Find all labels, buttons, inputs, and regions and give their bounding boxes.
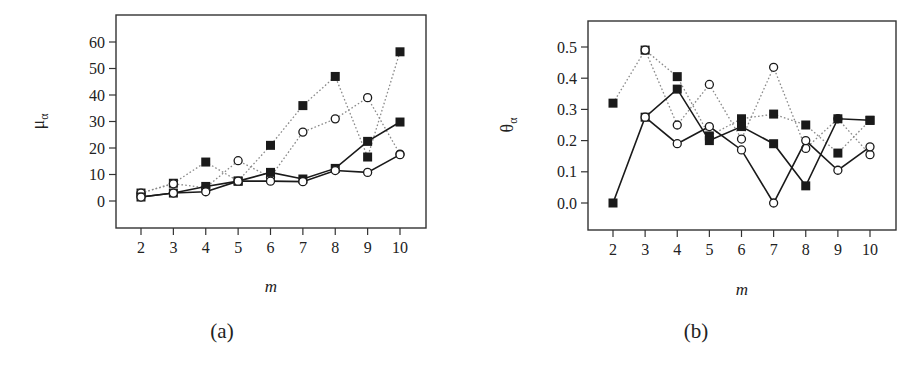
x-tick-label: 2 [609,241,617,258]
square-marker [396,47,405,56]
square-marker [609,199,618,208]
y-tick-label: 30 [89,113,105,130]
square-marker [396,118,405,127]
circle-marker [169,189,177,197]
square-marker [609,99,618,108]
y-tick-label: 0 [97,193,105,210]
circle-marker [169,180,177,188]
circle-marker [364,94,372,102]
square-marker [705,136,714,145]
y-tick-label: 40 [89,87,105,104]
x-tick-label: 8 [802,241,810,258]
y-tick-label: 10 [89,166,105,183]
series-line [645,50,870,155]
y-tick-label: 60 [89,34,105,51]
square-marker [673,85,682,94]
square-marker [363,137,372,146]
plot-frame [116,15,426,228]
circle-marker [738,135,746,143]
y-tick-label: 0.4 [557,70,577,87]
x-tick-label: 3 [641,241,649,258]
circle-marker [396,151,404,159]
square-marker [737,114,746,123]
x-tick-label: 6 [738,241,746,258]
caption-a: (a) [210,319,233,343]
circle-marker [705,80,713,88]
x-tick-label: 9 [364,239,372,256]
square-marker [266,168,275,177]
x-tick-label: 3 [169,239,177,256]
circle-marker [364,168,372,176]
square-marker [866,116,875,125]
circle-marker [673,121,681,129]
square-marker [801,181,810,190]
circle-marker [802,137,810,145]
circle-marker [866,143,874,151]
series-line [645,117,870,203]
x-tick-label: 9 [834,241,842,258]
square-marker [673,72,682,81]
series-line [141,122,400,197]
x-axis-title: m [265,277,277,296]
circle-marker [267,177,275,185]
chart-panel-b: 0.00.10.20.30.40.52345678910mθα [497,21,896,299]
x-tick-label: 4 [673,241,681,258]
circle-marker [705,123,713,131]
circle-marker [834,166,842,174]
square-marker [737,122,746,131]
x-axis-title: m [736,280,748,299]
x-tick-label: 7 [299,239,307,256]
x-tick-label: 4 [202,239,210,256]
circle-marker [641,46,649,54]
x-tick-label: 7 [770,241,778,258]
y-axis-title: μα [28,113,51,130]
circle-marker [331,167,339,175]
figure: 01020304050602345678910mμα 0.00.10.20.30… [0,0,914,365]
circle-marker [770,63,778,71]
square-marker [266,141,275,150]
circle-marker [673,140,681,148]
square-marker [363,153,372,162]
y-tick-label: 0.1 [557,163,577,180]
x-tick-label: 10 [392,239,408,256]
y-tick-label: 20 [89,140,105,157]
circle-marker [202,188,210,196]
y-tick-label: 0.5 [557,39,577,56]
y-tick-label: 0.0 [557,195,577,212]
circle-marker [299,178,307,186]
square-marker [833,114,842,123]
circle-marker [234,177,242,185]
square-marker [769,110,778,119]
y-axis-title: θα [497,117,520,133]
caption-b: (b) [684,319,709,343]
circle-marker [299,128,307,136]
y-tick-label: 0.2 [557,132,577,149]
circle-marker [137,193,145,201]
circle-marker [738,146,746,154]
circle-marker [641,113,649,121]
circle-marker [770,199,778,207]
y-tick-label: 0.3 [557,101,577,118]
square-marker [769,139,778,148]
x-tick-label: 6 [267,239,275,256]
x-tick-label: 8 [331,239,339,256]
square-marker [201,158,210,167]
circle-marker [331,115,339,123]
square-marker [801,121,810,130]
x-tick-label: 10 [862,241,878,258]
x-tick-label: 5 [705,241,713,258]
circle-marker [234,157,242,165]
x-tick-label: 2 [137,239,145,256]
square-marker [331,72,340,81]
x-tick-label: 5 [234,239,242,256]
y-tick-label: 50 [89,60,105,77]
circle-marker [866,151,874,159]
chart-panel-a: 01020304050602345678910mμα [28,15,426,296]
square-marker [833,149,842,158]
square-marker [298,101,307,110]
